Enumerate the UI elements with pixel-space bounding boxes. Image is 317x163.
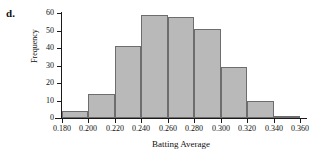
- histogram-bar: [221, 67, 247, 118]
- x-axis-tick: [141, 118, 142, 123]
- y-axis-title: Frequency: [31, 6, 39, 86]
- x-axis-tick: [115, 118, 116, 123]
- x-axis-tick: [247, 118, 248, 123]
- histogram-bar: [194, 29, 220, 118]
- plot-area: [62, 13, 300, 118]
- histogram-figure: d. Frequency 0102030405060 0.1800.2000.2…: [0, 0, 317, 163]
- y-axis-tick-label: 50: [46, 27, 54, 35]
- x-axis-tick: [168, 118, 169, 123]
- histogram-bar: [274, 116, 300, 118]
- x-axis-line: [55, 118, 307, 119]
- y-axis-tick-label: 40: [46, 44, 54, 52]
- histogram-bar: [62, 111, 88, 118]
- histogram-bar: [141, 15, 167, 118]
- x-axis-tick: [62, 118, 63, 123]
- y-axis-tick-label: 60: [46, 9, 54, 17]
- histogram-bar: [88, 94, 114, 119]
- histogram-bar: [168, 17, 194, 119]
- x-axis-tick: [194, 118, 195, 123]
- x-axis-tick-label: 0.360: [280, 125, 317, 133]
- x-axis-tick: [221, 118, 222, 123]
- y-axis-tick-label: 30: [46, 62, 54, 70]
- y-axis-tick-label: 10: [46, 97, 54, 105]
- part-label: d.: [6, 8, 15, 19]
- y-axis-tick-label: 20: [46, 79, 54, 87]
- histogram-bar: [115, 46, 141, 118]
- x-axis-tick: [274, 118, 275, 123]
- histogram-bar: [247, 101, 273, 119]
- x-axis-tick: [88, 118, 89, 123]
- x-axis-title: Batting Average: [62, 140, 300, 149]
- x-axis-tick: [300, 118, 301, 123]
- y-axis-tick-label: 0: [50, 114, 54, 122]
